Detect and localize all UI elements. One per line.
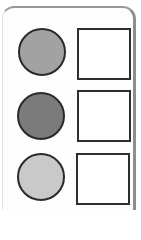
answer-box-2[interactable] — [77, 90, 131, 142]
circle-swatch-1 — [18, 28, 66, 76]
circle-swatch-2 — [17, 92, 65, 140]
circle-swatch-3 — [17, 153, 65, 201]
answer-box-1[interactable] — [77, 28, 131, 80]
answer-box-3[interactable] — [76, 153, 130, 205]
